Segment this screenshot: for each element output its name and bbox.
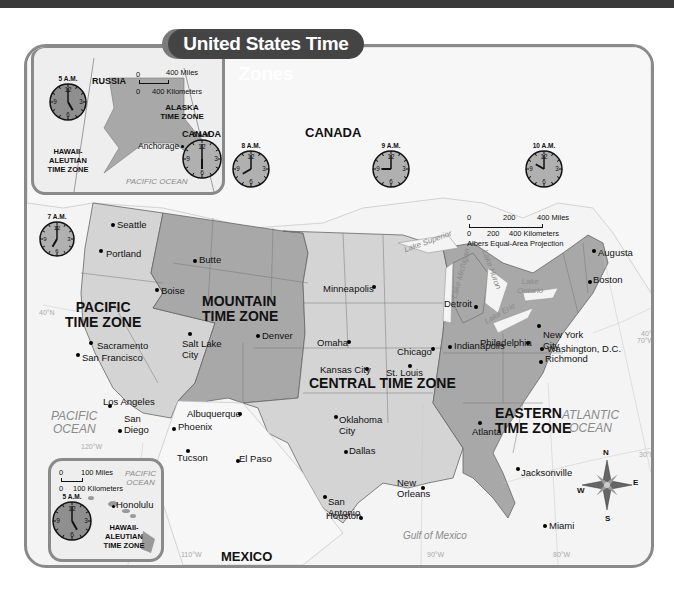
city-minneapolis: Minneapolis (323, 283, 374, 294)
clock-time-label: 5 A.M. (52, 493, 92, 500)
city-seattle: Seattle (117, 219, 147, 230)
clock-face-icon: 12 3 6 9 (232, 150, 270, 188)
map-frame: RUSSIA CANADA 0 400 Miles 0 400 Kilomete… (24, 44, 654, 568)
city-augusta: Augusta (598, 247, 633, 258)
lon-70w: 70°W (637, 337, 654, 344)
gulf-of-mexico-label: Gulf of Mexico (403, 529, 467, 542)
city-phoenix: Phoenix (178, 421, 212, 432)
lon-80w: 80°W (553, 551, 570, 558)
alaska-scale-bar (139, 80, 169, 84)
clock-hawaii-aleutian: 5 A.M. 12 3 6 9 (49, 75, 87, 122)
hawaii-aleutian-inset-label: HAWAII- ALEUTIAN TIME ZONE (40, 147, 96, 174)
city-new-orleans: NewOrleans (397, 477, 430, 499)
svg-text:3: 3 (214, 155, 218, 162)
city-salt-lake: Salt LakeCity (182, 338, 222, 360)
svg-text:6: 6 (542, 178, 546, 185)
clock-mountain: 8 A.M. 12 3 6 9 (232, 142, 270, 189)
svg-text:3: 3 (555, 165, 559, 172)
san-francisco-dot (76, 353, 80, 357)
clock-face-icon: 12 3 6 9 (49, 83, 87, 121)
pacific-ocean-label: PACIFIC OCEAN (51, 410, 97, 436)
clock-time-label: 7 A.M. (37, 213, 77, 220)
svg-text:6: 6 (70, 531, 74, 538)
clock-eastern: 10 A.M. 12 3 6 9 (525, 142, 563, 189)
atlantic-ocean-label: ATLANTIC OCEAN (562, 409, 619, 435)
city-st-louis: St. Louis (386, 367, 423, 378)
atlanta-dot (478, 421, 482, 425)
jacksonville-dot (516, 467, 520, 471)
city-detroit: Detroit (444, 298, 472, 309)
clock-alaska: 6 A.M. 12 3 6 9 (182, 131, 222, 180)
eastern-zone-label: EASTERN TIME ZONE (495, 406, 571, 436)
svg-text:3: 3 (84, 517, 88, 524)
butte-dot (193, 259, 197, 263)
alaska-pacific-ocean-label: PACIFIC OCEAN (126, 177, 188, 186)
alaska-scale-zero-km: 0 (136, 87, 140, 96)
city-san-diego: SanDiego (124, 413, 149, 435)
clock-time-label: 5 A.M. (48, 75, 88, 82)
city-denver: Denver (262, 330, 293, 341)
city-richmond: Richmond (545, 353, 588, 364)
lake-ontario-label: Lake Ontario (517, 277, 543, 295)
city-anchorage: Anchorage (138, 141, 179, 152)
augusta-dot (592, 249, 596, 253)
seattle-dot (111, 223, 115, 227)
city-miami: Miami (549, 520, 574, 531)
alaska-scale-miles: 400 Miles (166, 68, 198, 77)
map-title: United States Time Zones (168, 29, 364, 59)
hawaii-scale-bar (61, 478, 83, 482)
svg-text:6: 6 (66, 111, 70, 118)
clock-time-label: 10 A.M. (524, 142, 564, 149)
compass-star-icon (577, 455, 637, 515)
city-oklahoma: OklahomaCity (339, 414, 382, 436)
city-boston: Boston (593, 274, 623, 285)
svg-text:6: 6 (249, 178, 253, 185)
city-sacramento: Sacramento (97, 340, 148, 351)
pacific-zone-label: PACIFIC TIME ZONE (65, 300, 141, 330)
city-san-antonio: SanAntonio (328, 496, 360, 518)
city-kansas-city: Kansas City (320, 364, 371, 375)
city-los-angeles: Los Angeles (103, 396, 155, 407)
alaska-zone-label: ALASKA TIME ZONE (152, 103, 212, 121)
city-tucson: Tucson (177, 452, 208, 463)
alaska-scale-km: 400 Kilometers (152, 87, 202, 96)
hawaii-zone-label: HAWAII- ALEUTIAN TIME ZONE (99, 523, 149, 550)
clock-face-icon: 12 3 6 9 (525, 150, 563, 188)
city-san-francisco: San Francisco (82, 352, 143, 363)
city-atlanta: Atlanta (472, 426, 502, 437)
lat-40n-east: 40°N (641, 330, 654, 337)
clock-pacific: 7 A.M. 12 3 6 9 (39, 213, 75, 258)
hawaii-scale-km: 100 Kilometers (73, 484, 123, 493)
mexico-label: MEXICO (221, 549, 272, 564)
clock-time-label: 8 A.M. (231, 142, 271, 149)
top-bar (0, 0, 674, 8)
city-honolulu: Honolulu (116, 499, 154, 510)
honolulu-dot (112, 505, 115, 508)
lon-120w: 120°W (81, 443, 102, 450)
clock-hawaii-inset: 5 A.M. 12 3 6 9 (52, 493, 92, 542)
city-butte: Butte (199, 254, 221, 265)
clock-face-icon: 12 3 6 9 (52, 501, 92, 541)
richmond-dot (539, 360, 543, 364)
portland-dot (99, 249, 103, 253)
san-antonio-dot (323, 495, 327, 499)
canada-label: CANADA (305, 125, 361, 140)
lon-90w: 90°W (427, 551, 444, 558)
russia-label: RUSSIA (92, 76, 126, 86)
phoenix-dot (172, 427, 176, 431)
san-diego-dot (118, 429, 122, 433)
washington-dot (540, 347, 544, 351)
svg-text:9: 9 (56, 517, 60, 524)
lat-40n-west: 40°N (39, 309, 55, 316)
clock-time-label: 6 A.M. (182, 131, 222, 138)
clock-time-label: 9 A.M. (371, 142, 411, 149)
dallas-dot (344, 450, 348, 454)
svg-text:3: 3 (79, 98, 83, 105)
svg-text:9: 9 (236, 165, 240, 172)
city-chicago: Chicago (397, 346, 432, 357)
svg-text:9: 9 (186, 155, 190, 162)
svg-text:6: 6 (389, 178, 393, 185)
hawaii-scale-zero-km: 0 (59, 484, 63, 493)
boise-dot (155, 288, 159, 292)
svg-text:9: 9 (376, 165, 380, 172)
